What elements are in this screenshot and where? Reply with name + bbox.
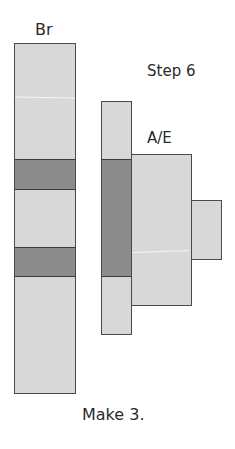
ae-block-sheen [132, 250, 190, 253]
middle-dark-band [102, 159, 131, 277]
instruction-label: Make 3. [82, 407, 145, 423]
br-label: Br [35, 22, 53, 38]
br-dark-band-2 [15, 247, 75, 277]
ae-block [131, 154, 192, 306]
ae-label: A/E [147, 131, 172, 146]
br-dark-band-1 [15, 159, 75, 190]
step-label: Step 6 [147, 64, 195, 79]
br-strip-sheen [15, 96, 75, 98]
tab-piece [191, 200, 222, 260]
br-strip [14, 43, 76, 394]
